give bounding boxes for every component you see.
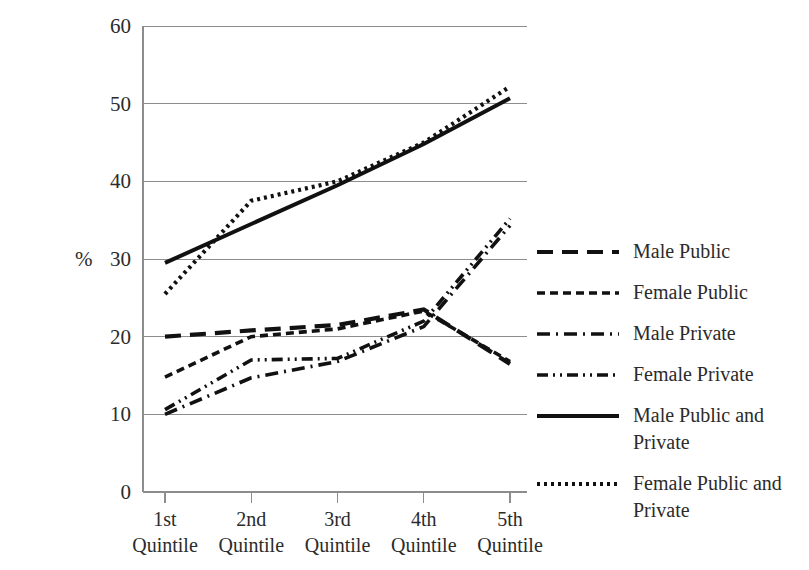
legend-item-label[interactable]: Male Public and [633, 404, 764, 426]
legend-item-label[interactable]: Female Public [633, 281, 748, 303]
y-tick-label: 50 [110, 92, 131, 116]
x-category-label: Quintile [391, 534, 457, 556]
series-line-male-public-and-private [165, 98, 510, 263]
x-category-label: Quintile [305, 534, 371, 556]
y-tick-label: 0 [121, 480, 132, 504]
x-category-label: Quintile [477, 534, 543, 556]
series-line-female-private [165, 219, 510, 410]
legend-item-label[interactable]: Male Public [633, 240, 730, 262]
gridlines [143, 26, 527, 492]
y-tick-label: 20 [110, 325, 131, 349]
legend-item-label[interactable]: Female Private [633, 363, 754, 385]
legend-item-label[interactable]: Female Public and [633, 472, 782, 494]
legend-item-label[interactable]: Male Private [633, 322, 736, 344]
data-series-group [165, 87, 510, 415]
y-axis-unit-label: % [75, 247, 93, 271]
x-category-labels: 1stQuintile2ndQuintile3rdQuintile4thQuin… [132, 508, 543, 556]
legend: Male PublicFemale PublicMale PrivateFema… [537, 240, 782, 521]
legend-item-label-cont[interactable]: Private [633, 499, 690, 521]
y-axis-unit-label: % [75, 247, 93, 271]
legend-item-label-cont[interactable]: Private [633, 431, 690, 453]
y-tick-label: 10 [110, 402, 131, 426]
y-tick-labels: 6050403020100 [110, 14, 131, 504]
y-tick-label: 30 [110, 247, 131, 271]
x-category-label: 4th [411, 508, 437, 530]
line-chart: 6050403020100 % 1stQuintile2ndQuintile3r… [0, 0, 809, 570]
series-line-female-public [165, 311, 510, 377]
x-category-label: Quintile [132, 534, 198, 556]
y-tick-label: 60 [110, 14, 131, 38]
y-tick-label: 40 [110, 169, 131, 193]
x-category-label: 1st [153, 508, 177, 530]
chart-canvas: 6050403020100 % 1stQuintile2ndQuintile3r… [0, 0, 809, 570]
x-category-label: 2nd [236, 508, 266, 530]
series-line-male-private [165, 226, 510, 415]
series-line-female-public-and-private [165, 87, 510, 294]
x-axis [143, 492, 527, 503]
x-category-label: 3rd [324, 508, 351, 530]
x-category-label: 5th [497, 508, 523, 530]
x-category-label: Quintile [218, 534, 284, 556]
